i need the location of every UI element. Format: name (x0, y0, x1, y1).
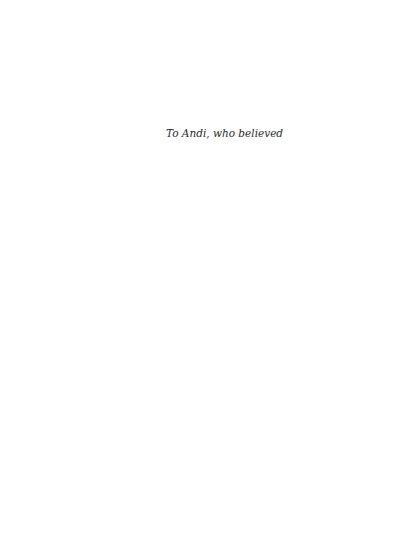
dedication-text: To Andi, who believed (166, 125, 276, 141)
book-dedication-page: To Andi, who believed (0, 0, 407, 536)
